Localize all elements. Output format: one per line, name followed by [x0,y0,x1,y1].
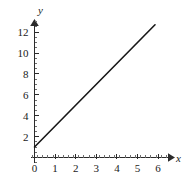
y-axis-label: y [37,4,43,16]
x-tick-label: 1 [52,162,58,174]
x-tick-label: 2 [73,162,79,174]
x-tick-label: 5 [135,162,141,174]
y-tick-label: 8 [23,68,29,80]
y-tick-label: 4 [23,110,29,122]
x-axis-label: x [175,152,181,164]
x-axis-arrow-icon [168,153,175,162]
axes-group [30,19,175,163]
data-line [35,25,156,147]
y-tick-label: 10 [18,47,30,59]
chart-canvas: 0123456 24681012 x y [0,0,183,192]
line-chart: 0123456 24681012 x y [0,0,183,192]
y-axis-arrow-icon [30,19,39,26]
y-axis-tick-labels: 24681012 [18,26,30,143]
x-tick-label: 3 [94,162,100,174]
x-axis-tick-labels: 0123456 [32,162,162,174]
y-tick-label: 6 [23,89,29,101]
y-tick-label: 2 [23,131,29,143]
x-tick-label: 4 [114,162,120,174]
x-tick-label: 0 [32,162,38,174]
y-tick-label: 12 [18,26,29,38]
series-group [35,25,156,147]
x-tick-label: 6 [155,162,161,174]
